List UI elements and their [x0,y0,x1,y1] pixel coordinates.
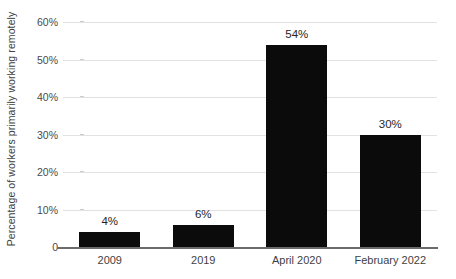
y-axis-title-text: Percentage of workers primarily working … [5,12,17,247]
x-axis-tick-label: February 2022 [354,254,426,266]
y-axis-title: Percentage of workers primarily working … [0,0,22,258]
x-axis-tick-label: April 2020 [272,254,322,266]
bar-chart: Percentage of workers primarily working … [0,0,456,279]
y-axis-tick-label: 60% [37,16,58,28]
gridline [63,22,437,23]
y-axis-tick-label: 50% [37,54,58,66]
bar-value-label: 54% [285,28,308,40]
y-axis-tick-label: 20% [37,166,58,178]
y-axis-tick-labels: 60%50%40%30%20%10%0 [22,0,58,279]
bar-value-label: 30% [379,118,402,130]
bar-value-label: 6% [195,208,212,220]
bar[interactable] [360,135,421,248]
plot-area [63,22,437,247]
x-axis-tick-label: 2019 [191,254,215,266]
y-axis-tick-label: 30% [37,129,58,141]
x-axis-tick-label: 2009 [98,254,122,266]
bar[interactable] [79,232,140,247]
gridline [63,97,437,98]
y-axis-tick-label: 40% [37,91,58,103]
gridline [63,60,437,61]
y-axis-tick-label: 10% [37,204,58,216]
bar-value-label: 4% [101,215,118,227]
bar[interactable] [173,225,234,248]
x-axis-line [57,247,438,249]
bar[interactable] [266,45,327,248]
